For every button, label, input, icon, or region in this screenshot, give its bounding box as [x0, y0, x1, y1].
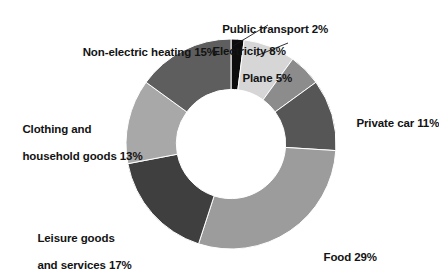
slice-label-leisure-goods: Leisure goods and services 17% — [25, 218, 165, 269]
donut-slice-food[interactable] — [199, 147, 336, 249]
slice-label-food-line1: Food 29% — [323, 251, 377, 263]
slice-label-clothing-household-goods: Clothing and household goods 13% — [10, 109, 160, 177]
slice-label-private-car: Private car 11% — [344, 103, 436, 144]
slice-label-non-electric-heating: Non-electric heating 15% — [57, 32, 217, 73]
slice-label-leisure-goods-line1: Leisure goods — [37, 232, 114, 244]
slice-label-private-car-line1: Private car 11% — [356, 117, 439, 129]
slice-label-food: Food 29% — [297, 237, 377, 269]
slice-label-plane-line1: Plane 5% — [242, 72, 292, 84]
slice-label-clothing-line1: Clothing and — [22, 123, 91, 135]
slice-label-non-electric-heating-line1: Non-electric heating 15% — [83, 46, 217, 58]
slice-label-leisure-goods-line2: and services 17% — [37, 259, 131, 269]
slice-label-plane: Plane 5% — [230, 58, 336, 99]
slice-label-electricity-line1: Electricity 8% — [212, 45, 285, 57]
slice-label-clothing-line2: household goods 13% — [22, 150, 142, 162]
